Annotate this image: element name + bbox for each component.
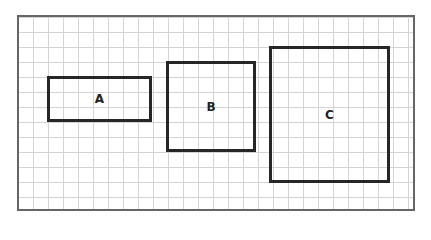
box-b: B xyxy=(166,61,256,152)
box-a: A xyxy=(47,76,152,122)
box-c: C xyxy=(269,46,390,183)
box-b-label: B xyxy=(206,100,215,114)
box-c-label: C xyxy=(325,108,334,122)
box-a-label: A xyxy=(95,92,104,106)
